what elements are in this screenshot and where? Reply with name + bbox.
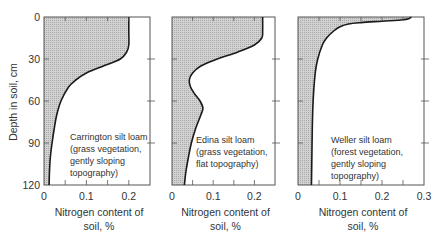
panel-2: 00.10.2Nitrogen content ofsoil, %Edina s…	[169, 17, 280, 232]
x-axis-title: Nitrogen content of	[181, 206, 270, 218]
y-tick-label: 0	[34, 11, 40, 23]
soil-annotation: flat topography)	[196, 159, 259, 169]
soil-annotation: Weller silt loam	[331, 135, 392, 145]
x-tick-label: 0.1	[333, 190, 348, 202]
x-tick-label: 0	[169, 190, 175, 202]
nitrogen-depth-chart: 00.10.20306090120Nitrogen content ofsoil…	[0, 0, 441, 238]
x-axis-title: Nitrogen content of	[319, 206, 408, 218]
soil-annotation: topography)	[70, 168, 118, 178]
x-tick-label: 0.2	[247, 190, 262, 202]
soil-annotation: gently sloping	[331, 159, 386, 169]
x-axis-title: Nitrogen content of	[55, 206, 144, 218]
soil-annotation: (grass vegetation,	[70, 144, 142, 154]
soil-annotation: Carrington silt loam	[70, 132, 148, 142]
soil-annotation: gently sloping	[70, 156, 125, 166]
soil-annotation: topography)	[331, 171, 379, 181]
x-tick-label: 0	[295, 190, 301, 202]
y-tick-label: 90	[28, 137, 40, 149]
y-tick-label: 120	[22, 179, 40, 191]
x-tick-label: 0.2	[121, 190, 136, 202]
y-axis-title: Depth in soil, cm	[7, 63, 19, 141]
soil-annotation: (grass vegetation,	[196, 147, 268, 157]
soil-annotation: Edina silt loam	[196, 135, 255, 145]
x-tick-label: 0.3	[417, 190, 432, 202]
x-tick-label: 0.1	[206, 190, 221, 202]
x-tick-label: 0.1	[79, 190, 94, 202]
x-tick-label: 0	[41, 190, 47, 202]
x-axis-title: soil, %	[84, 220, 115, 232]
y-tick-label: 60	[28, 95, 40, 107]
panel-1: 00.10.20306090120Nitrogen content ofsoil…	[7, 11, 155, 232]
x-axis-title: soil, %	[348, 220, 379, 232]
x-tick-label: 0.2	[375, 190, 390, 202]
soil-annotation: (forest vegetation,	[331, 147, 403, 157]
y-tick-label: 30	[28, 53, 40, 65]
panel-3: 00.10.20.3Nitrogen content ofsoil, %Well…	[295, 17, 431, 232]
x-axis-title: soil, %	[210, 220, 241, 232]
